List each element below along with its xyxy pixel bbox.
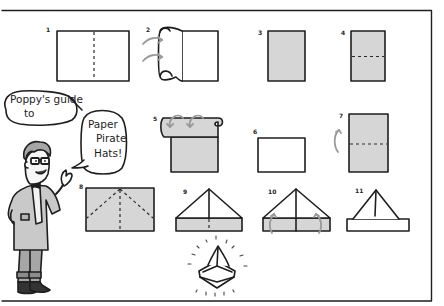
step-1-number: 1 [46,26,50,33]
step-7-number: 7 [339,112,343,119]
step-10: 10 [263,188,330,233]
step-4-number: 4 [341,29,345,36]
step-5-number: 5 [153,115,157,122]
step-8-number: 8 [79,183,83,190]
final-hat [188,236,247,296]
speech-bubble-1: Poppy's guide to [5,91,83,125]
bubble-1-line-2: to [24,107,35,119]
step-8: 8 [79,183,154,231]
bubble-2-line-1: Paper [88,118,118,130]
step-4: 4 [341,29,385,81]
step-7: 7 [335,112,388,172]
step-9-number: 9 [183,188,187,195]
poppy-character [8,142,72,294]
step-6: 6 [253,128,305,172]
step-10-number: 10 [268,188,276,195]
step-5: 5 [153,115,223,172]
step-9: 9 [176,188,242,231]
bubble-2-line-3: Hats! [94,147,122,159]
step-11: 11 [347,187,409,231]
step-3-number: 3 [258,29,262,36]
bubble-2-line-2: Pirate [96,132,126,144]
step-1: 1 [46,26,129,81]
step-2: 2 [143,26,218,81]
step-6-number: 6 [253,128,257,135]
step-2-number: 2 [146,26,150,33]
bubble-1-line-1: Poppy's guide [10,93,83,105]
step-3: 3 [258,29,305,81]
step-11-number: 11 [355,187,363,194]
speech-bubble-2: Paper Pirate Hats! [72,111,127,175]
pirate-hat-guide-illustration: 1 2 3 4 5 6 7 [0,0,444,306]
